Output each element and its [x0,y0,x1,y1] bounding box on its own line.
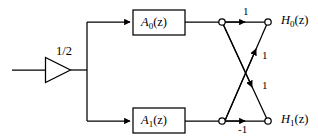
block-a1-label-arg: (z) [153,113,167,127]
node-bottom-right [265,118,271,124]
output-h1-main: H [281,112,290,126]
signal-flow-diagram: 1/2 A0(z) A1(z) 1 1 1 -1 H0(z) H1(z) [0,0,318,140]
block-a1-label: A1(z) [141,114,167,129]
coefficient-cross-up: 1 [262,50,268,61]
block-a0-label: A0(z) [141,16,167,31]
coefficient-cross-down: 1 [262,80,268,91]
block-a0-label-arg: (z) [153,15,167,29]
output-label-h1: H1(z) [281,113,308,128]
output-h0-arg: (z) [295,13,309,27]
path-cross-down-arrow [224,25,253,87]
output-h1-arg: (z) [295,112,309,126]
coefficient-top-direct: 1 [243,6,249,17]
gain-label: 1/2 [56,45,72,58]
node-top-left [219,19,225,25]
node-bottom-left [219,118,225,124]
output-h0-main: H [281,13,290,27]
coefficient-bottom-direct: -1 [238,124,247,135]
output-label-h0: H0(z) [281,14,308,29]
block-a0-label-main: A [141,15,149,29]
block-a1-label-main: A [141,113,149,127]
node-top-right [265,19,271,25]
gain-triangle [46,58,71,83]
